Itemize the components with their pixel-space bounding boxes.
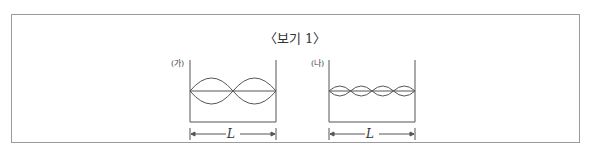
panel-a-tube [190, 60, 276, 122]
panel-a-length-label: L [227, 127, 235, 141]
panel-b-tube [329, 60, 415, 122]
panel-b-length-label: L [366, 127, 374, 141]
standing-wave-diagrams [0, 0, 590, 152]
